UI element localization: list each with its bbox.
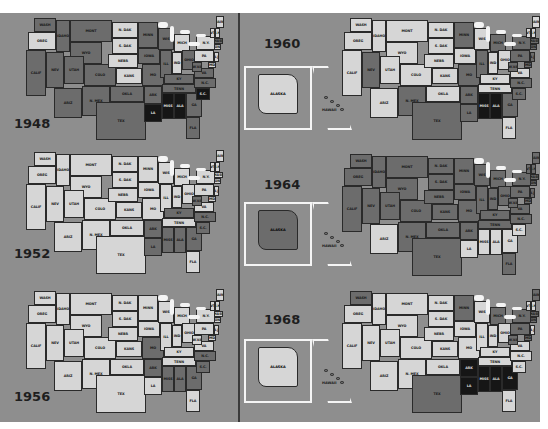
state-nv: NEV [362,52,380,88]
state-sd: S. DAK [112,311,138,327]
state-al: ALA [490,93,502,119]
state-nc: N.C. [194,212,216,222]
state-la: LA [144,238,162,256]
state-az: ARIZ [370,361,398,391]
state-az: ARIZ [54,88,82,118]
state-nv: NEV [46,52,64,88]
state-wa: WASH [350,18,372,32]
state-ks: KANS [432,341,458,357]
state-in: IND [488,52,498,74]
state-ct: CONN [214,317,221,323]
state-ky: KY [480,210,510,220]
state-ms: MISS [162,227,174,253]
state-az: ARIZ [370,224,398,254]
state-nd: N. DAK [428,158,454,174]
state-ma: MASS [214,38,223,44]
map-panel-1960: WASHOREGCALIFIDAHONEVMONTWYOUTAHCOLOARIZ… [244,16,544,146]
great-lake [158,156,168,162]
state-ca: CALIF [26,184,46,230]
state-in: IND [488,325,498,347]
state-ok: OKLA [110,359,144,375]
hawaii-island [324,232,328,235]
state-al: ALA [174,366,186,392]
great-lake [180,164,190,168]
state-mn: MINN [138,22,158,48]
state-mn: MINN [454,22,474,48]
state-ok: OKLA [110,220,144,236]
state-ut: UTAH [380,192,400,220]
state-tx: TEX [96,375,146,413]
state-id: IDAHO [56,20,70,52]
state-mt: MONT [70,154,112,176]
state-tx: TEX [412,238,462,276]
state-mt: MONT [70,293,112,315]
great-lake [180,303,190,307]
state-ct: CONN [214,178,221,184]
state-mn: MINN [138,295,158,321]
us-map: WASHOREGCALIFIDAHONEVMONTWYOUTAHCOLOARIZ… [340,152,540,277]
state-ma: MASS [530,174,539,180]
hawaii-island [340,108,344,111]
state-tn: TENN [478,220,512,229]
state-ia: IOWA [138,321,160,337]
state-pa: PA [510,186,530,198]
state-md: MD [524,62,532,68]
state-nv: NEV [362,188,380,224]
state-la: LA [460,104,478,122]
state-tn: TENN [162,357,196,366]
hawaii-island [324,96,328,99]
state-sd: S. DAK [428,311,454,327]
state-ky: KY [164,208,194,218]
state-ks: KANS [432,204,458,220]
state-ca: CALIF [26,50,46,96]
state-or: OREG [344,168,372,186]
state-ct: CONN [214,44,221,50]
state-wv: W.VA [508,335,518,345]
state-ca: CALIF [26,323,46,369]
state-ne: NEBR [424,327,454,341]
state-tx: TEX [412,102,462,140]
state-fl: FLA [186,251,200,273]
great-lake [486,26,490,42]
state-al: ALA [490,366,502,392]
great-lake [170,299,174,315]
year-label: 1948 [14,116,50,131]
great-lake [486,162,490,178]
state-nd: N. DAK [112,295,138,311]
map-panel-1968: WASHOREGCALIFIDAHONEVMONTWYOUTAHCOLOARIZ… [244,289,544,419]
state-md: MD [208,62,216,68]
state-wv: W.VA [192,335,202,345]
state-ma: MASS [214,172,223,178]
state-wa: WASH [350,291,372,305]
state-az: ARIZ [370,88,398,118]
state-ms: MISS [478,366,490,392]
state-tn: TENN [478,84,512,93]
state-ky: KY [480,74,510,84]
state-in: IND [172,52,182,74]
great-lake [486,299,490,315]
great-lake [496,30,506,34]
state-ca: CALIF [342,323,362,369]
great-lake [512,34,522,37]
state-me: MAINE [532,16,540,28]
hawaii-island [336,240,340,243]
great-lake [504,42,516,46]
hawaii-island [324,369,328,372]
hawaii-island [336,104,340,107]
state-nd: N. DAK [428,295,454,311]
state-ut: UTAH [380,329,400,357]
state-sc: S.C. [512,361,526,373]
state-ia: IOWA [454,184,476,200]
state-ct: CONN [530,317,537,323]
state-ar: ARK [144,86,162,104]
state-sc: S.C. [196,222,210,234]
great-lake [158,22,168,28]
state-wv: W.VA [192,196,202,206]
state-nd: N. DAK [112,156,138,172]
state-sd: S. DAK [428,38,454,54]
us-map: WASHOREGCALIFIDAHONEVMONTWYOUTAHCOLOARIZ… [340,16,540,141]
state-ia: IOWA [138,182,160,198]
great-lake [512,170,522,173]
state-ia: IOWA [454,48,476,64]
map-panel-1956: WASHOREGCALIFIDAHONEVMONTWYOUTAHCOLOARIZ… [14,289,234,419]
